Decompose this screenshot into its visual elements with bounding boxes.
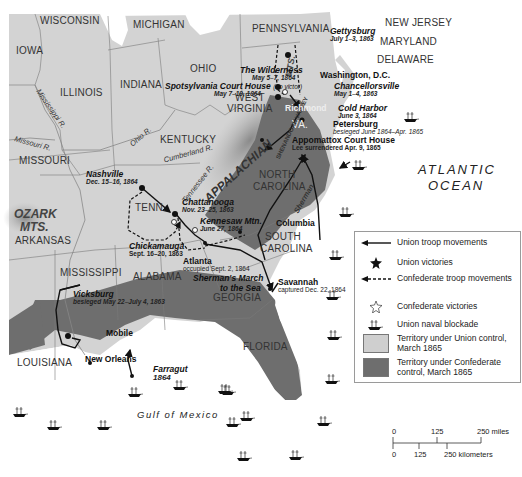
state-wisconsin: WISCONSIN — [40, 16, 100, 26]
atlantic-label-2: OCEAN — [428, 179, 484, 192]
confederate-victory-star-icon — [355, 301, 397, 313]
place-atlanta: Atlantaoccupied Sept. 2, 1864 — [183, 257, 250, 272]
legend-item-union-troops: Union troop movements — [355, 238, 515, 247]
state-florida: FLORIDA — [243, 342, 288, 352]
place-new-orleans: New Orleans — [85, 355, 137, 364]
union-territory-swatch — [363, 334, 389, 353]
legend-item-union-territory: Territory under Union control, March 186… — [355, 334, 515, 353]
ozark-label-1: OZARK — [14, 208, 57, 220]
union-arrow-icon — [355, 239, 397, 247]
scale-miles-125: 125 — [431, 428, 444, 436]
place-savannah: Savannahcaptured Dec. 22, 1864 — [278, 278, 346, 293]
shermans-march-label-2: to the Sea — [220, 284, 261, 293]
state-michigan: MICHIGAN — [133, 20, 185, 30]
state-louisiana: LOUISIANA — [17, 358, 72, 368]
gulf-of-mexico-label: Gulf of Mexico — [137, 410, 219, 420]
place-kennesaw: Kennesaw Mtn.June 27, 1864 — [200, 217, 262, 232]
legend-item-confederate-troops: Confederate troop movements — [355, 274, 515, 283]
state-illinois: ILLINOIS — [60, 88, 103, 98]
state-north-carolina-2: CAROLINA — [253, 182, 306, 192]
place-richmond: Richmond — [285, 104, 327, 113]
place-spotsylvania: Spotsylvania Court House (no victor)May … — [165, 82, 302, 97]
union-victory-star-icon — [355, 257, 397, 269]
state-iowa: IOWA — [16, 46, 43, 56]
state-indiana: INDIANA — [120, 80, 162, 90]
place-vicksburg: Vicksburgbesieged May 22–July 4, 1863 — [73, 290, 165, 305]
scale-miles-0: 0 — [392, 428, 396, 436]
scale-km-0: 0 — [392, 451, 396, 459]
place-petersburg: Petersburgbesieged June 1864–Apr. 1865 — [333, 120, 423, 135]
state-new-jersey: NEW JERSEY — [385, 18, 452, 28]
state-pennsylvania: PENNSYLVANIA — [252, 24, 330, 34]
ship-icon — [355, 319, 397, 331]
scale-miles-250: 250 miles — [477, 428, 509, 436]
scale-km-250: 250 kilometers — [444, 451, 493, 459]
atlantic-label-1: ATLANTIC — [418, 163, 496, 176]
state-maryland: MARYLAND — [380, 37, 437, 47]
place-washington-dc: Washington, D.C. — [320, 71, 390, 80]
state-georgia: GEORGIA — [213, 293, 261, 303]
legend-item-confederate-victories: Confederate victories — [355, 301, 515, 313]
state-missouri: MISSOURI — [19, 156, 70, 166]
place-appomattox: Appomattox Court HouseLee surrendered Ap… — [292, 136, 395, 151]
state-south-carolina-1: SOUTH — [265, 232, 301, 242]
ozark-label-2: MTS. — [20, 221, 49, 233]
place-cold-harbor: Cold HarborJune 3, 1864 — [338, 104, 387, 119]
scale-km-125: 125 — [414, 451, 427, 459]
state-delaware: DELAWARE — [377, 55, 434, 65]
state-tennessee: TENN. — [135, 203, 166, 213]
place-gettysburg: GettysburgJuly 1–3, 1863 — [330, 27, 375, 42]
state-alabama: ALABAMA — [133, 272, 182, 282]
map-legend: Union troop movements Union victories Co… — [354, 231, 521, 383]
state-arkansas: ARKANSAS — [15, 236, 71, 246]
place-chattanooga: ChattanoogaNov. 23–25, 1863 — [182, 198, 234, 213]
place-wilderness: The WildernessMay 5–7, 1864 — [240, 66, 303, 81]
state-west-virginia-2: VIRGINIA — [227, 104, 273, 114]
state-north-carolina-1: NORTH — [259, 170, 295, 180]
shermans-march-label-1: Sherman's March — [193, 274, 264, 283]
legend-item-confederate-territory: Territory under Confederate control, Mar… — [355, 358, 515, 377]
state-mississippi: MISSISSIPPI — [60, 268, 122, 278]
legend-item-union-victories: Union victories — [355, 257, 515, 269]
state-south-carolina-2: CAROLINA — [260, 244, 313, 254]
confederate-dashed-arrow-icon — [355, 275, 397, 283]
place-mobile: Mobile — [106, 329, 133, 338]
place-nashville: NashvilleDec. 15–16, 1864 — [86, 170, 138, 185]
place-farragut: Farragut1864 — [153, 365, 187, 382]
place-chancellorsville: ChancellorsvilleMay 1–4, 1863 — [334, 82, 399, 97]
place-chickamauga: ChickamaugaSept. 16–20, 1863 — [129, 242, 184, 257]
confederate-territory-swatch — [363, 358, 389, 377]
place-columbia: Columbia — [276, 219, 315, 228]
legend-item-naval-blockade: Union naval blockade — [355, 319, 515, 331]
state-ohio: OHIO — [190, 64, 216, 74]
